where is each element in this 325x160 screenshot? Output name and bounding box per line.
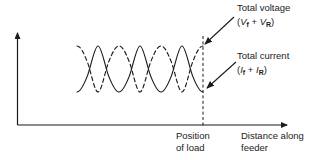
total-current-label: Total current (If + IR) xyxy=(237,50,289,78)
total-current-formula: (If + IR) xyxy=(237,64,289,79)
formula-close-paren: ) xyxy=(271,16,274,27)
position-of-load-line1: Position xyxy=(176,130,210,142)
formula-plus: + xyxy=(245,64,256,75)
distance-along-feeder-label: Distance along feeder xyxy=(241,130,304,153)
total-voltage-title: Total voltage xyxy=(237,2,290,14)
formula-plus: + xyxy=(249,16,260,27)
total-current-arrow xyxy=(207,62,236,88)
total-current-curve xyxy=(77,46,203,92)
total-voltage-curve xyxy=(77,46,203,92)
total-current-title: Total current xyxy=(237,50,289,62)
position-of-load-label: Position of load xyxy=(176,130,210,153)
distance-along-feeder-line1: Distance along xyxy=(241,130,304,142)
position-of-load-line2: of load xyxy=(176,142,210,154)
total-voltage-formula: (Vf + VR) xyxy=(237,16,290,31)
total-voltage-arrow xyxy=(205,17,234,44)
distance-along-feeder-line2: feeder xyxy=(241,142,304,154)
formula-close-paren: ) xyxy=(264,64,267,75)
total-voltage-label: Total voltage (Vf + VR) xyxy=(237,2,290,30)
